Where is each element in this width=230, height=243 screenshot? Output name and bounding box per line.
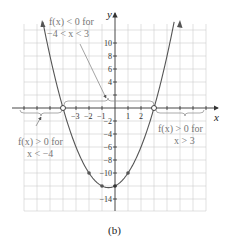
svg-text:−2: −2 xyxy=(84,112,93,121)
svg-text:1: 1 xyxy=(126,112,130,121)
point-0-neg12 xyxy=(113,184,117,188)
svg-text:−14: −14 xyxy=(99,195,112,204)
curve-right-arrow xyxy=(177,20,183,28)
y-tick-labels: 10 8 6 4 −2 −4 −6 −8 −10 −14 xyxy=(99,39,112,204)
svg-text:−10: −10 xyxy=(99,169,112,178)
svg-text:f(x) > 0 for: f(x) > 0 for xyxy=(18,136,63,148)
svg-text:−3: −3 xyxy=(71,112,80,121)
svg-text:x < −4: x < −4 xyxy=(27,148,53,159)
parabola-chart: −3 −2 −1 1 2 10 8 6 4 −2 −4 −6 −8 −10 −1… xyxy=(0,0,230,243)
svg-text:−4 < x < 3: −4 < x < 3 xyxy=(47,28,89,39)
svg-text:x > 3: x > 3 xyxy=(174,135,195,146)
svg-text:10: 10 xyxy=(104,39,112,48)
svg-text:−6: −6 xyxy=(103,143,112,152)
curve-left-arrow xyxy=(41,20,46,27)
svg-text:8: 8 xyxy=(108,52,112,61)
negative-region-brace xyxy=(64,98,154,105)
svg-text:f(x) < 0 for: f(x) < 0 for xyxy=(49,16,94,28)
annotation-left-positive: f(x) > 0 for x < −4 xyxy=(18,136,63,159)
left-positive-brace xyxy=(20,110,62,116)
svg-text:−8: −8 xyxy=(103,156,112,165)
root-3 xyxy=(152,106,157,111)
y-axis-label: y xyxy=(106,8,112,20)
point-neg2-neg10 xyxy=(87,171,91,175)
point-neg1-neg12 xyxy=(100,184,104,188)
svg-text:4: 4 xyxy=(108,78,112,87)
svg-text:2: 2 xyxy=(139,112,143,121)
figure-caption: (b) xyxy=(108,224,121,237)
svg-text:f(x) > 0 for: f(x) > 0 for xyxy=(158,123,203,135)
point-1-neg10 xyxy=(126,171,130,175)
x-axis-label: x xyxy=(213,111,219,123)
svg-text:−2: −2 xyxy=(103,117,112,126)
svg-text:6: 6 xyxy=(108,65,112,74)
annotation-right-positive: f(x) > 0 for x > 3 xyxy=(158,123,203,146)
svg-text:−4: −4 xyxy=(103,130,112,139)
annotation-negative: f(x) < 0 for −4 < x < 3 xyxy=(47,16,94,39)
root-neg4 xyxy=(61,106,66,111)
